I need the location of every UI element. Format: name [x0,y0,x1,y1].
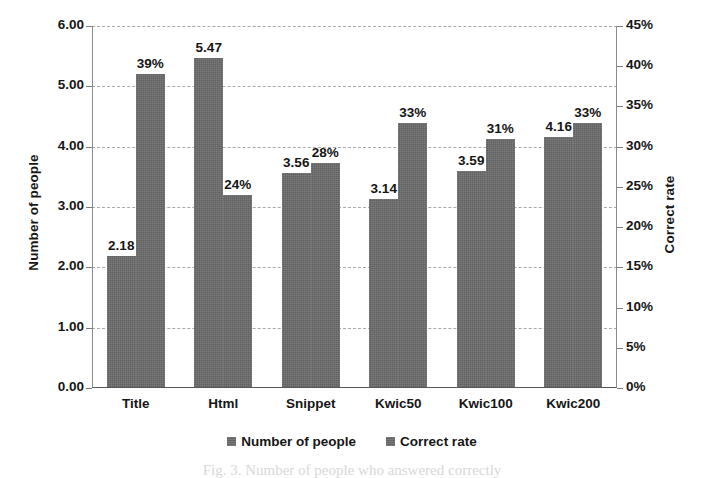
plot-area: 2.1839%5.4724%3.5628%3.1433%3.5931%4.163… [92,26,617,388]
tick-mark-right [617,147,623,148]
x-axis-label-title: Title [91,396,181,411]
tick-mark-right [617,308,623,309]
tick-mark-right [617,388,623,389]
x-axis-label-kwic200: Kwic200 [528,396,618,411]
y-axis-left-tick-label: 2.00 [58,258,84,273]
x-axis-category-labels: TitleHtmlSnippetKwic50Kwic100Kwic200 [92,396,617,418]
tick-mark-right [617,187,623,188]
y-axis-right-tick-label: 30% [626,138,653,153]
tick-mark-right [617,26,623,27]
x-axis-label-kwic50: Kwic50 [353,396,443,411]
y-axis-right-tick-label: 5% [626,339,646,354]
x-axis-label-html: Html [178,396,268,411]
legend-swatch-number-of-people [227,437,236,446]
y-axis-right-tick-label: 45% [626,17,653,32]
y-axis-right-tick-label: 15% [626,258,653,273]
y-axis-right-tick-label: 0% [626,379,646,394]
y-axis-left-tick-label: 3.00 [58,198,84,213]
legend-swatch-correct-rate [386,437,395,446]
y-axis-right-ticks: 0%5%10%15%20%25%30%35%40%45% [626,0,672,478]
legend-label: Number of people [241,434,356,449]
chart-legend: Number of peopleCorrect rate [0,434,704,449]
figure-caption: Fig. 3. Number of people who answered co… [0,462,704,478]
legend-entry[interactable]: Correct rate [386,434,477,449]
plot-frame [92,26,617,388]
legend-label: Correct rate [400,434,477,449]
legend-entry[interactable]: Number of people [227,434,356,449]
tick-mark-right [617,106,623,107]
figure: Number of people Correct rate 0.001.002.… [0,0,704,478]
y-axis-left-tick-label: 6.00 [58,17,84,32]
tick-mark-right [617,348,623,349]
y-axis-right-tick-label: 10% [626,299,653,314]
y-axis-right-tick-label: 35% [626,97,653,112]
x-axis-label-snippet: Snippet [266,396,356,411]
y-axis-left-tick-label: 4.00 [58,138,84,153]
y-axis-left-tick-label: 1.00 [58,319,84,334]
tick-mark-right [617,227,623,228]
y-axis-right-tick-label: 20% [626,218,653,233]
y-axis-left-tick-label: 0.00 [58,379,84,394]
x-axis-label-kwic100: Kwic100 [441,396,531,411]
y-axis-left-ticks: 0.001.002.003.004.005.006.00 [38,0,84,478]
y-axis-right-tick-label: 40% [626,57,653,72]
y-axis-right-tick-label: 25% [626,178,653,193]
tick-mark-left [86,388,92,389]
tick-mark-right [617,267,623,268]
y-axis-left-tick-label: 5.00 [58,77,84,92]
tick-mark-right [617,66,623,67]
